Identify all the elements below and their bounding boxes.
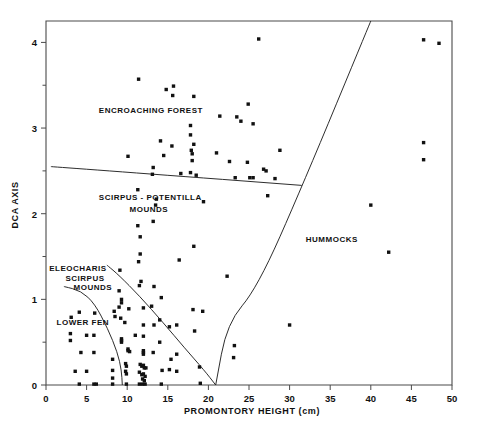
data-point bbox=[137, 260, 140, 263]
data-point bbox=[92, 351, 95, 354]
data-point bbox=[136, 188, 139, 191]
data-point bbox=[193, 329, 196, 332]
data-point bbox=[175, 323, 178, 326]
x-tick-label: 40 bbox=[366, 393, 377, 404]
data-point bbox=[189, 171, 192, 174]
x-tick-label: 30 bbox=[284, 393, 295, 404]
data-point bbox=[235, 115, 238, 118]
data-point bbox=[139, 235, 142, 238]
data-point bbox=[125, 372, 128, 375]
data-point bbox=[191, 152, 194, 155]
data-point bbox=[190, 149, 193, 152]
data-point bbox=[251, 176, 254, 179]
data-point bbox=[137, 78, 140, 81]
data-point bbox=[111, 358, 114, 361]
data-point bbox=[232, 356, 235, 359]
data-point bbox=[111, 376, 114, 379]
data-point bbox=[69, 332, 72, 335]
data-point bbox=[201, 310, 204, 313]
data-point bbox=[228, 160, 231, 163]
data-point bbox=[239, 120, 242, 123]
data-point bbox=[189, 124, 192, 127]
data-point bbox=[127, 307, 130, 310]
y-tick-label: 1 bbox=[32, 294, 38, 305]
data-point bbox=[202, 200, 205, 203]
data-point bbox=[175, 353, 178, 356]
data-point bbox=[195, 174, 198, 177]
data-point bbox=[142, 306, 145, 309]
zone-label: LOWER FEN bbox=[57, 318, 110, 327]
data-point bbox=[138, 284, 141, 287]
zone-label: MOUNDS bbox=[74, 283, 113, 292]
data-point bbox=[125, 365, 128, 368]
data-point bbox=[95, 382, 98, 385]
data-point bbox=[192, 245, 195, 248]
x-tick-label: 5 bbox=[84, 393, 90, 404]
data-point bbox=[151, 173, 154, 176]
data-point bbox=[120, 339, 123, 342]
y-tick-label: 0 bbox=[32, 380, 37, 391]
data-point bbox=[168, 325, 171, 328]
data-point bbox=[191, 308, 194, 311]
data-point bbox=[218, 114, 221, 117]
data-point bbox=[152, 323, 155, 326]
data-point bbox=[134, 334, 137, 337]
data-point bbox=[113, 310, 116, 313]
data-point bbox=[179, 172, 182, 175]
scatter-plot-figure: 05101520253035404550 01234 ENCROACHING F… bbox=[0, 0, 478, 433]
data-point bbox=[273, 177, 276, 180]
data-point bbox=[152, 166, 155, 169]
data-point bbox=[144, 366, 147, 369]
data-point bbox=[118, 269, 121, 272]
data-point bbox=[152, 285, 155, 288]
data-point bbox=[128, 350, 131, 353]
data-point bbox=[138, 382, 141, 385]
data-point bbox=[120, 301, 123, 304]
data-point bbox=[111, 382, 114, 385]
x-tick-label: 20 bbox=[203, 393, 214, 404]
zone-label: MOUNDS bbox=[130, 205, 169, 214]
data-point bbox=[369, 203, 372, 206]
data-point bbox=[199, 382, 202, 385]
data-point bbox=[123, 321, 126, 324]
data-point bbox=[142, 335, 145, 338]
x-axis-title: PROMONTORY HEIGHT (cm) bbox=[184, 406, 320, 416]
data-point bbox=[189, 133, 192, 136]
data-point bbox=[152, 351, 155, 354]
data-point bbox=[125, 382, 128, 385]
data-point bbox=[198, 365, 201, 368]
data-point bbox=[192, 143, 195, 146]
data-point bbox=[136, 224, 139, 227]
data-point bbox=[139, 280, 142, 283]
data-point bbox=[422, 141, 425, 144]
data-point bbox=[178, 258, 181, 261]
zone-label: ENCROACHING FOREST bbox=[99, 106, 203, 115]
data-point bbox=[143, 379, 146, 382]
data-point bbox=[172, 84, 175, 87]
data-point bbox=[139, 252, 142, 255]
x-tick-label: 45 bbox=[406, 393, 417, 404]
data-point bbox=[117, 289, 120, 292]
x-tick-label: 35 bbox=[325, 393, 336, 404]
data-point bbox=[288, 323, 291, 326]
data-point bbox=[85, 370, 88, 373]
data-point bbox=[169, 358, 172, 361]
plot-canvas: 05101520253035404550 01234 ENCROACHING F… bbox=[0, 0, 478, 433]
data-point bbox=[278, 149, 281, 152]
zone-label: SCIRPUS bbox=[66, 274, 105, 283]
data-point bbox=[142, 353, 145, 356]
data-point bbox=[93, 311, 96, 314]
data-point bbox=[78, 382, 81, 385]
data-point bbox=[170, 144, 173, 147]
data-point bbox=[159, 139, 162, 142]
data-point bbox=[79, 351, 82, 354]
zone-label: SCIRPUS - POTENTILLA bbox=[99, 193, 202, 202]
data-point bbox=[92, 334, 95, 337]
x-tick-label: 0 bbox=[43, 393, 48, 404]
data-point bbox=[126, 155, 129, 158]
data-point bbox=[69, 339, 72, 342]
data-point bbox=[74, 370, 77, 373]
data-point bbox=[225, 275, 228, 278]
y-tick-label: 4 bbox=[32, 37, 38, 48]
data-point bbox=[142, 323, 145, 326]
